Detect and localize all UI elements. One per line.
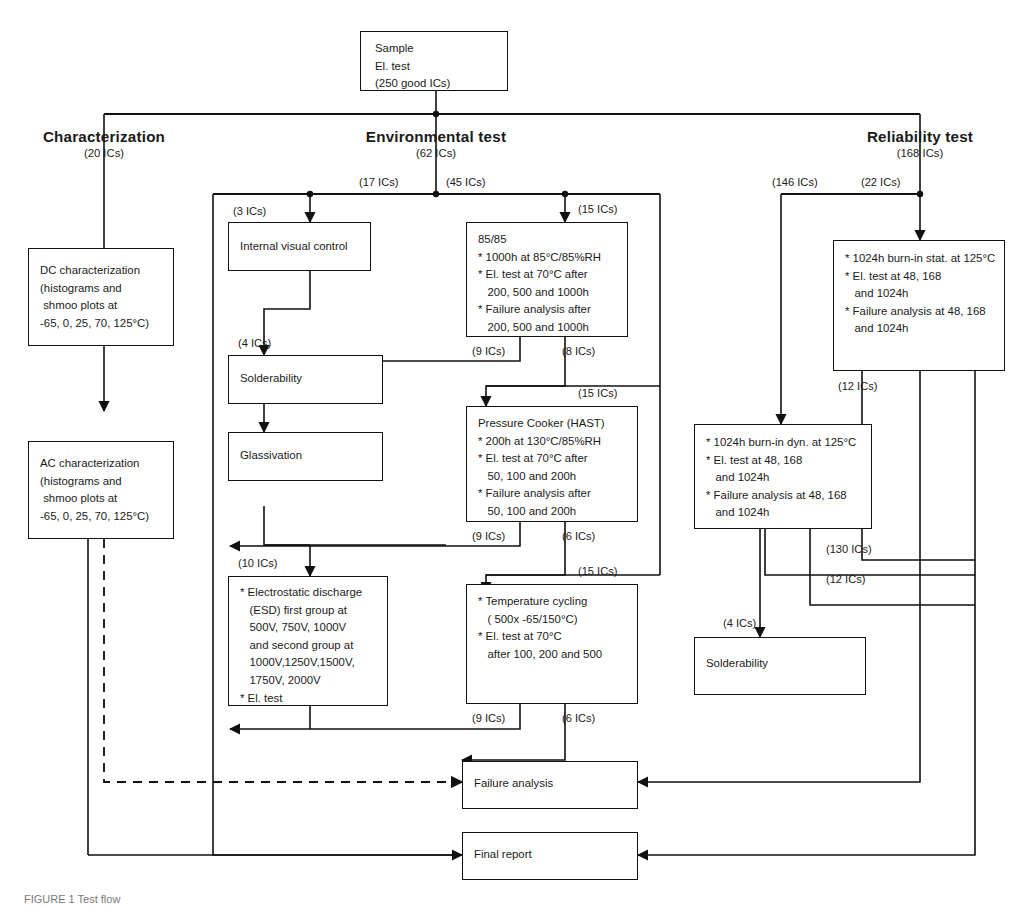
- node-text: * Failure analysis after: [478, 302, 617, 317]
- edge-label-burn-12: (12 ICs): [838, 380, 877, 392]
- node-text: (ESD) first group at: [240, 603, 377, 618]
- flowchart-diagram: Sample El. test (250 good ICs) DC charac…: [0, 0, 1034, 907]
- edge-label-hast-6: (6 ICs): [562, 530, 595, 542]
- branch-count: (20 ICs): [14, 146, 194, 161]
- branch-header-characterization: Characterization (20 ICs): [14, 128, 194, 161]
- figure-caption: FIGURE 1 Test flow: [24, 893, 120, 905]
- node-text: 50, 100 and 200h: [478, 469, 627, 484]
- node-failure-analysis: Failure analysis: [462, 761, 638, 809]
- node-burn-in-static: * 1024h burn-in stat. at 125°C * El. tes…: [833, 240, 1005, 371]
- branch-header-environmental: Environmental test (62 ICs): [346, 128, 526, 161]
- node-text: Failure analysis: [474, 776, 627, 791]
- branch-title: Reliability test: [830, 128, 1010, 145]
- edge-label-env-45: (45 ICs): [446, 176, 485, 188]
- edge-label-dyn-130: (130 ICs): [826, 543, 872, 555]
- node-text: * El. test at 70°C after: [478, 451, 627, 466]
- branch-title: Characterization: [14, 128, 194, 145]
- node-text: Internal visual control: [240, 239, 360, 254]
- node-text: * Electrostatic discharge: [240, 585, 377, 600]
- edge-label-esd-10: (10 ICs): [238, 557, 277, 569]
- node-text: * Temperature cycling: [478, 594, 627, 609]
- branch-header-reliability: Reliability test (168 ICs): [830, 128, 1010, 161]
- node-text: El. test: [375, 59, 497, 74]
- node-text: * El. test at 70°C after: [478, 267, 617, 282]
- node-text: Solderability: [706, 656, 855, 671]
- branch-title: Environmental test: [346, 128, 526, 145]
- edge-label-env-17: (17 ICs): [359, 176, 398, 188]
- edge-label-visual-3: (3 ICs): [233, 205, 266, 217]
- edge-label-tc-6: (6 ICs): [562, 712, 595, 724]
- node-text: Final report: [474, 847, 627, 862]
- node-text: 1000V,1250V,1500V,: [240, 655, 377, 670]
- edge-label-tc-9: (9 ICs): [472, 712, 505, 724]
- node-text: * El. test at 48, 168: [845, 269, 994, 284]
- node-glassivation: Glassivation: [228, 432, 383, 481]
- node-text: and 1024h: [845, 286, 994, 301]
- node-temperature-cycling: * Temperature cycling ( 500x -65/150°C) …: [466, 584, 638, 704]
- node-text: 85/85: [478, 232, 617, 247]
- node-text: * 200h at 130°C/85%RH: [478, 434, 627, 449]
- node-text: * El. test: [240, 691, 377, 706]
- node-text: and second group at: [240, 638, 377, 653]
- edge-label-rel-22: (22 ICs): [861, 176, 900, 188]
- branch-count: (168 ICs): [830, 146, 1010, 161]
- node-text: * El. test at 70°C: [478, 629, 627, 644]
- edge-label-hast-9: (9 ICs): [472, 530, 505, 542]
- node-burn-in-dynamic: * 1024h burn-in dyn. at 125°C * El. test…: [694, 424, 872, 529]
- node-text: 200, 500 and 1000h: [478, 320, 617, 335]
- node-text: * 1024h burn-in dyn. at 125°C: [706, 435, 861, 450]
- edge-label-rel-146: (146 ICs): [772, 176, 818, 188]
- node-ac-characterization: AC characterization (histograms and shmo…: [28, 441, 174, 539]
- node-sample: Sample El. test (250 good ICs): [360, 31, 508, 91]
- node-text: 500V, 750V, 1000V: [240, 620, 377, 635]
- node-text: (250 good ICs): [375, 76, 497, 91]
- node-text: (histograms and: [40, 474, 163, 489]
- node-text: (histograms and: [40, 281, 163, 296]
- node-text: Sample: [375, 41, 497, 56]
- node-text: shmoo plots at: [40, 491, 163, 506]
- node-text: and 1024h: [706, 470, 861, 485]
- node-text: shmoo plots at: [40, 298, 163, 313]
- edge-label-8585-8: (8 ICs): [562, 345, 595, 357]
- node-text: * 1000h at 85°C/85%RH: [478, 250, 617, 265]
- node-text: -65, 0, 25, 70, 125°C): [40, 509, 163, 524]
- node-text: 1750V, 2000V: [240, 673, 377, 688]
- node-internal-visual-control: Internal visual control: [228, 222, 371, 271]
- node-text: * 1024h burn-in stat. at 125°C: [845, 251, 994, 266]
- edge-label-8585-15: (15 ICs): [578, 203, 617, 215]
- node-text: and 1024h: [706, 505, 861, 520]
- edge-label-tc-15: (15 ICs): [578, 565, 617, 577]
- node-test-85-85: 85/85 * 1000h at 85°C/85%RH * El. test a…: [466, 222, 628, 337]
- node-final-report: Final report: [462, 832, 638, 880]
- edge-label-solder-rel-4: (4 ICs): [723, 617, 756, 629]
- node-text: ( 500x -65/150°C): [478, 612, 627, 627]
- node-text: DC characterization: [40, 263, 163, 278]
- node-text: Glassivation: [240, 448, 372, 463]
- node-text: Solderability: [240, 371, 372, 386]
- edge-label-dyn-12: (12 ICs): [826, 573, 865, 585]
- node-text: * Failure analysis at 48, 168: [706, 488, 861, 503]
- node-text: AC characterization: [40, 456, 163, 471]
- branch-count: (62 ICs): [346, 146, 526, 161]
- node-text: and 1024h: [845, 321, 994, 336]
- node-dc-characterization: DC characterization (histograms and shmo…: [28, 248, 174, 346]
- node-text: 200, 500 and 1000h: [478, 285, 617, 300]
- node-text: * Failure analysis after: [478, 486, 627, 501]
- node-pressure-cooker-hast: Pressure Cooker (HAST) * 200h at 130°C/8…: [466, 406, 638, 522]
- node-solderability-reliability: Solderability: [694, 637, 866, 695]
- node-text: * El. test at 48, 168: [706, 453, 861, 468]
- edge-label-8585-9: (9 ICs): [472, 345, 505, 357]
- node-text: 50, 100 and 200h: [478, 504, 627, 519]
- node-text: Pressure Cooker (HAST): [478, 416, 627, 431]
- node-text: * Failure analysis at 48, 168: [845, 304, 994, 319]
- node-text: -65, 0, 25, 70, 125°C): [40, 316, 163, 331]
- node-solderability-environmental: Solderability: [228, 355, 383, 404]
- edge-label-hast-15: (15 ICs): [578, 387, 617, 399]
- edge-label-solder-4: (4 ICs): [238, 337, 271, 349]
- node-text: after 100, 200 and 500: [478, 647, 627, 662]
- node-electrostatic-discharge: * Electrostatic discharge (ESD) first gr…: [228, 576, 388, 706]
